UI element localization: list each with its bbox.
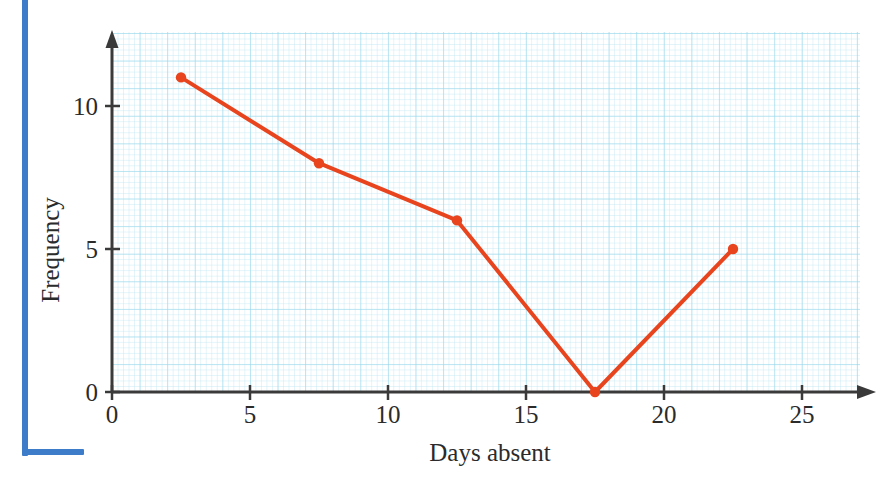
y-tick-label-10: 10 (52, 94, 98, 119)
data-point (314, 158, 324, 168)
y-axis (106, 30, 119, 392)
x-axis-title: Days absent (429, 440, 551, 465)
y-tick-label-0: 0 (66, 380, 98, 405)
x-tick-label-15: 15 (514, 402, 539, 427)
y-axis-title: Frequency (38, 197, 63, 303)
x-tick-label-20: 20 (652, 402, 677, 427)
y-tick-label-5: 5 (66, 237, 98, 262)
x-tick-label-25: 25 (790, 402, 815, 427)
x-tick-label-10: 10 (376, 402, 401, 427)
data-point (590, 387, 600, 397)
data-point-markers (176, 72, 738, 397)
data-point (452, 215, 462, 225)
chart-page: 0 5 10 15 20 25 0 5 10 Days absent Frequ… (0, 0, 894, 487)
x-axis (112, 385, 876, 399)
data-series-line (181, 77, 733, 392)
frequency-polygon-plot (0, 0, 894, 487)
x-tick-label-0: 0 (106, 402, 119, 427)
data-point (176, 72, 186, 82)
x-tick-label-5: 5 (244, 402, 257, 427)
data-point (728, 244, 738, 254)
